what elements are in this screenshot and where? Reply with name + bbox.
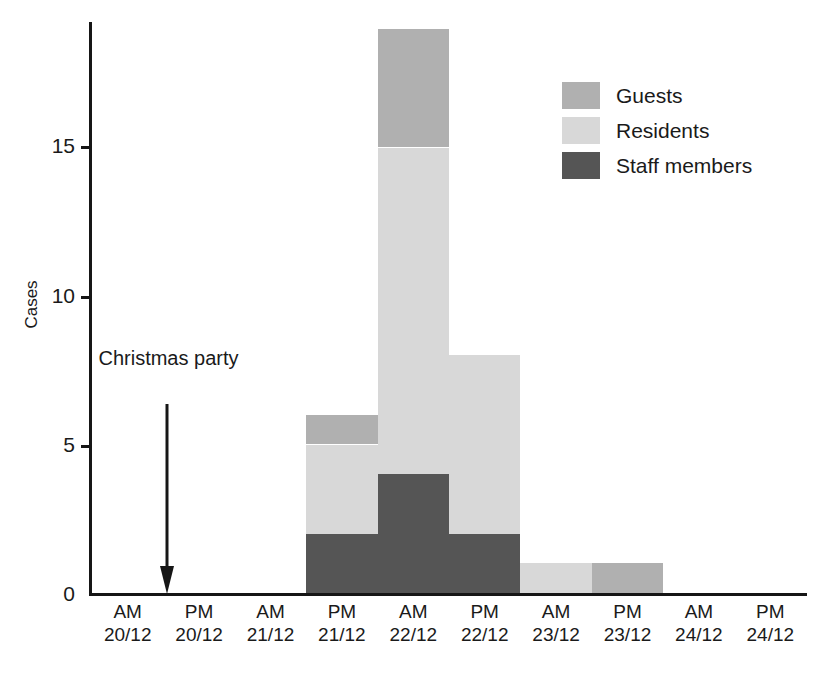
annotation-arrow-down-icon bbox=[160, 404, 174, 594]
x-label-period: AM bbox=[378, 600, 449, 623]
x-label-date: 24/12 bbox=[735, 623, 806, 646]
bar-segment bbox=[378, 148, 449, 475]
x-axis-tick-label: PM21/12 bbox=[306, 600, 377, 646]
x-label-period: PM bbox=[735, 600, 806, 623]
x-label-period: PM bbox=[592, 600, 663, 623]
annotation-line1: Christmas bbox=[98, 347, 188, 369]
x-label-date: 21/12 bbox=[306, 623, 377, 646]
annotation-line2: party bbox=[194, 347, 238, 369]
bar-group bbox=[306, 22, 377, 594]
y-tick-label-15-wrap: 15 bbox=[20, 135, 75, 157]
x-axis-tick-label: PM23/12 bbox=[592, 600, 663, 646]
bar-segment bbox=[449, 355, 520, 533]
y-tick-label-5: 5 bbox=[35, 434, 75, 455]
bar-segment bbox=[592, 563, 663, 593]
legend-swatch-guests bbox=[562, 82, 600, 109]
x-axis-tick-label: AM21/12 bbox=[235, 600, 306, 646]
bar-segment bbox=[520, 563, 591, 593]
x-label-period: PM bbox=[449, 600, 520, 623]
x-axis-tick-label: PM24/12 bbox=[735, 600, 806, 646]
bar-group bbox=[449, 22, 520, 594]
bar-segment bbox=[378, 474, 449, 593]
x-label-date: 24/12 bbox=[663, 623, 734, 646]
plot-area bbox=[92, 22, 806, 594]
x-label-period: AM bbox=[663, 600, 734, 623]
legend-label-staff-members: Staff members bbox=[616, 154, 752, 178]
bar-segment bbox=[449, 534, 520, 593]
y-tick-label-10-wrap: 10 bbox=[20, 285, 75, 307]
bar-segment bbox=[306, 445, 377, 534]
x-label-date: 22/12 bbox=[378, 623, 449, 646]
x-label-date: 21/12 bbox=[235, 623, 306, 646]
y-tick-mark-15 bbox=[81, 146, 90, 149]
x-axis-tick-label: AM22/12 bbox=[378, 600, 449, 646]
y-tick-label-0: 0 bbox=[35, 583, 75, 604]
x-axis-tick-label: AM24/12 bbox=[663, 600, 734, 646]
y-tick-mark-5 bbox=[81, 445, 90, 448]
bar-segment bbox=[306, 534, 377, 593]
x-axis-tick-label: AM20/12 bbox=[92, 600, 163, 646]
bar-group bbox=[378, 22, 449, 594]
x-label-date: 23/12 bbox=[520, 623, 591, 646]
x-label-period: PM bbox=[163, 600, 234, 623]
x-axis-tick-label: PM22/12 bbox=[449, 600, 520, 646]
x-axis-tick-label: PM20/12 bbox=[163, 600, 234, 646]
x-axis-tick-label: AM23/12 bbox=[520, 600, 591, 646]
x-label-period: AM bbox=[520, 600, 591, 623]
legend-label-guests: Guests bbox=[616, 84, 683, 108]
x-label-date: 23/12 bbox=[592, 623, 663, 646]
y-tick-label-0-wrap: 0 bbox=[20, 583, 75, 605]
annotation-christmas-party: Christmas party bbox=[96, 345, 241, 371]
y-tick-label-10: 10 bbox=[35, 285, 75, 306]
x-label-date: 20/12 bbox=[163, 623, 234, 646]
bar-segment bbox=[306, 415, 377, 445]
x-label-period: AM bbox=[92, 600, 163, 623]
y-tick-label-5-wrap: 5 bbox=[20, 434, 75, 456]
y-tick-label-15: 15 bbox=[35, 135, 75, 156]
legend-swatch-staff-members bbox=[562, 152, 600, 179]
legend-swatch-residents bbox=[562, 117, 600, 144]
bar-group bbox=[163, 22, 234, 594]
x-label-date: 22/12 bbox=[449, 623, 520, 646]
bar-group bbox=[735, 22, 806, 594]
x-label-date: 20/12 bbox=[92, 623, 163, 646]
bar-segment bbox=[378, 29, 449, 148]
bar-group bbox=[235, 22, 306, 594]
legend-label-residents: Residents bbox=[616, 119, 709, 143]
chart-container: Cases 15 10 5 0 AM20/12PM20/12AM21/12PM2… bbox=[0, 0, 824, 675]
x-label-period: AM bbox=[235, 600, 306, 623]
y-tick-mark-10 bbox=[81, 296, 90, 299]
bar-group bbox=[92, 22, 163, 594]
x-label-period: PM bbox=[306, 600, 377, 623]
